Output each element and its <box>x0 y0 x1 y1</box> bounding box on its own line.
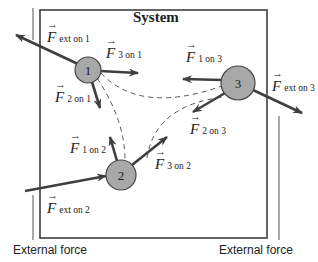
label-ext-on-1: Fext on 1 <box>47 28 90 46</box>
subscript: 2 on 3 <box>202 126 226 136</box>
arrow-1-on-3 <box>183 79 222 80</box>
label-2-on-1: F2 on 1 <box>55 88 91 106</box>
subscript: 1 on 2 <box>82 145 106 155</box>
external-force-label-left: External force <box>13 243 87 257</box>
arrow-ext-on-2 <box>25 176 106 191</box>
subscript: ext on 2 <box>59 205 90 215</box>
subscript: 3 on 2 <box>167 161 191 171</box>
label-1-on-3: F1 on 3 <box>186 48 222 66</box>
label-3-on-2: F3 on 2 <box>155 155 191 173</box>
vector-symbol: F <box>186 49 195 66</box>
particle-2: 2 <box>106 160 136 190</box>
svg-text:2: 2 <box>118 168 125 183</box>
vector-symbol: F <box>272 78 281 95</box>
particle-1: 1 <box>75 57 101 83</box>
subscript: 3 on 1 <box>118 50 142 60</box>
external-force-label-right: External force <box>219 243 293 257</box>
arrow-3-on-1 <box>100 71 138 73</box>
label-ext-on-3: Fext on 3 <box>272 77 315 95</box>
label-2-on-3: F2 on 3 <box>190 120 226 138</box>
particle-3: 3 <box>221 66 255 100</box>
svg-text:1: 1 <box>85 63 92 78</box>
label-ext-on-2: Fext on 2 <box>47 199 90 217</box>
arrow-2-on-1 <box>92 82 100 108</box>
subscript: ext on 1 <box>59 34 90 44</box>
vector-symbol: F <box>190 121 199 138</box>
label-1-on-2: F1 on 2 <box>70 139 106 157</box>
subscript: ext on 3 <box>284 83 315 93</box>
interaction-1-3 <box>101 73 222 98</box>
vector-symbol: F <box>47 29 56 46</box>
subscript: 2 on 1 <box>67 94 91 104</box>
vector-symbol: F <box>106 45 115 62</box>
arrow-1-on-2 <box>110 137 117 161</box>
subscript: 1 on 3 <box>198 54 222 64</box>
vector-symbol: F <box>55 89 64 106</box>
vector-symbol: F <box>70 140 79 157</box>
vector-symbol: F <box>155 156 164 173</box>
svg-text:3: 3 <box>235 76 242 91</box>
vector-symbol: F <box>47 200 56 217</box>
system-title: System <box>133 9 179 26</box>
label-3-on-1: F3 on 1 <box>106 44 142 62</box>
